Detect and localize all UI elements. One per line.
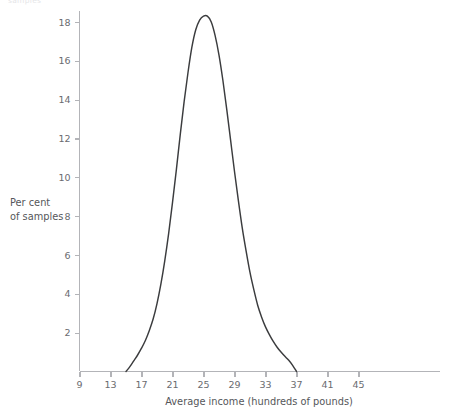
y-tick-label: 18 <box>58 17 70 28</box>
x-tick-label: 21 <box>166 379 178 390</box>
x-tick-label: 41 <box>321 379 333 390</box>
y-axis-group: 24681012141618 <box>58 11 79 371</box>
y-tick-group: 24681012141618 <box>58 17 79 339</box>
x-tick-label: 17 <box>135 379 147 390</box>
x-tick-label: 29 <box>228 379 240 390</box>
y-axis-title-line2: of samples <box>10 211 63 222</box>
x-tick-label: 9 <box>76 379 82 390</box>
y-tick-label: 6 <box>64 250 70 261</box>
x-tick-label: 45 <box>352 379 364 390</box>
x-tick-label: 25 <box>197 379 209 390</box>
y-tick-label: 4 <box>64 288 70 299</box>
x-tick-label: 37 <box>290 379 302 390</box>
x-axis-group: 9131721252933374145 <box>76 372 440 390</box>
y-tick-label: 2 <box>64 327 70 338</box>
x-axis-title: Average income (hundreds of pounds) <box>165 396 353 407</box>
figure-container: samples 24681012141618 91317212529333741… <box>0 0 450 416</box>
y-tick-label: 16 <box>58 55 70 66</box>
chart-plot: 24681012141618 9131721252933374145 Per c… <box>0 0 450 416</box>
x-tick-label: 33 <box>259 379 271 390</box>
x-tick-label: 13 <box>104 379 116 390</box>
x-tick-group: 9131721252933374145 <box>76 372 364 390</box>
y-tick-label: 12 <box>58 133 70 144</box>
y-tick-label: 14 <box>58 94 70 105</box>
y-tick-label: 8 <box>64 211 70 222</box>
y-axis-title-line1: Per cent <box>10 197 50 208</box>
distribution-curve <box>126 16 297 372</box>
y-tick-label: 10 <box>58 172 70 183</box>
